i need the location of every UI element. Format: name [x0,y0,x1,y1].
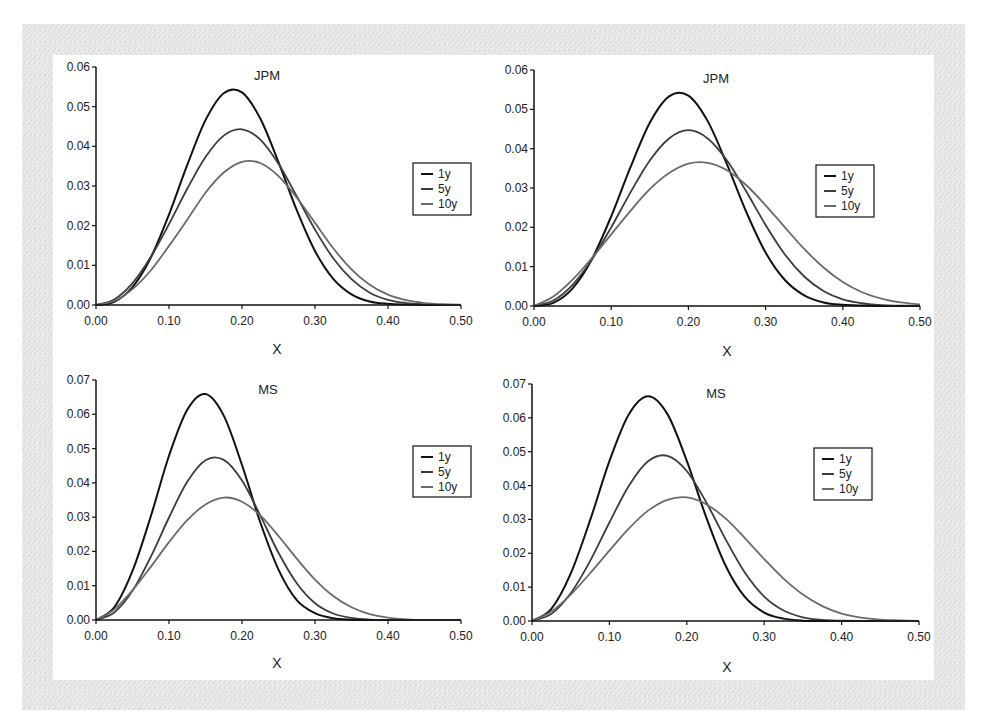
y-tick-label: 0.00 [67,298,91,312]
x-tick-label: 0.50 [449,314,473,328]
chart-title: MS [258,382,278,397]
legend-label-1y: 1y [841,169,854,183]
x-tick-label: 0.20 [230,629,254,643]
series-line-1y [532,396,919,621]
legend-label-1y: 1y [438,450,451,464]
y-tick-label: 0.03 [503,512,527,526]
x-tick-label: 0.40 [831,315,855,329]
x-tick-label: 0.30 [753,630,777,644]
x-tick-label: 0.20 [675,630,699,644]
legend-label-1y: 1y [438,167,451,181]
legend-label-10y: 10y [438,480,457,494]
y-tick-label: 0.07 [503,377,527,391]
x-tick-label: 0.20 [677,315,701,329]
x-tick-label: 0.00 [84,629,108,643]
x-tick-label: 0.10 [600,315,624,329]
y-tick-label: 0.00 [67,613,91,627]
series-line-10y [96,161,461,305]
series-line-1y [96,89,461,305]
x-tick-label: 0.50 [907,630,931,644]
legend: 1y5y10y [816,165,874,217]
legend-label-1y: 1y [839,452,852,466]
chart-ms-right: 0.000.010.020.030.040.050.060.070.000.10… [503,377,931,675]
legend-label-5y: 5y [839,467,852,481]
charts-svg: 0.000.010.020.030.040.050.060.000.100.20… [0,0,984,728]
x-tick-label: 0.00 [84,314,108,328]
legend: 1y5y10y [814,448,872,500]
chart-jpm-left: 0.000.010.020.030.040.050.060.000.100.20… [67,60,473,357]
legend-label-5y: 5y [841,184,854,198]
y-tick-label: 0.04 [67,476,91,490]
x-tick-label: 0.00 [520,630,544,644]
x-tick-label: 0.50 [449,629,473,643]
legend-label-10y: 10y [839,482,858,496]
x-tick-label: 0.30 [303,629,327,643]
chart-title: MS [706,386,726,401]
x-tick-label: 0.30 [754,315,778,329]
x-tick-label: 0.10 [157,314,181,328]
legend: 1y5y10y [413,446,471,497]
series-line-5y [96,457,461,620]
x-tick-label: 0.00 [522,315,546,329]
y-tick-label: 0.00 [503,614,527,628]
y-tick-label: 0.01 [503,580,527,594]
y-tick-label: 0.05 [67,100,91,114]
chart-ms-left: 0.000.010.020.030.040.050.060.070.000.10… [67,373,473,671]
x-tick-label: 0.20 [230,314,254,328]
y-tick-label: 0.05 [503,445,527,459]
y-tick-label: 0.04 [503,479,527,493]
y-tick-label: 0.03 [505,181,529,195]
x-tick-label: 0.10 [598,630,622,644]
y-tick-label: 0.02 [503,546,527,560]
y-tick-label: 0.06 [67,60,91,74]
y-tick-label: 0.03 [67,179,91,193]
y-tick-label: 0.03 [67,510,91,524]
x-tick-label: 0.50 [908,315,932,329]
x-axis-label: X [272,655,282,671]
legend-label-5y: 5y [438,465,451,479]
x-axis-label: X [722,343,732,359]
x-tick-label: 0.40 [376,629,400,643]
y-tick-label: 0.06 [503,411,527,425]
legend: 1y5y10y [413,163,471,215]
y-tick-label: 0.01 [505,260,529,274]
y-tick-label: 0.04 [67,139,91,153]
x-axis-label: X [272,341,282,357]
legend-label-10y: 10y [841,199,860,213]
y-tick-label: 0.05 [67,442,91,456]
y-tick-label: 0.02 [67,544,91,558]
x-tick-label: 0.40 [830,630,854,644]
chart-jpm-right: 0.000.010.020.030.040.050.060.000.100.20… [505,63,932,359]
series-line-1y [96,394,461,620]
x-tick-label: 0.40 [376,314,400,328]
y-tick-label: 0.01 [67,258,91,272]
series-line-5y [96,129,461,305]
y-tick-label: 0.02 [67,219,91,233]
y-tick-label: 0.01 [67,579,91,593]
y-tick-label: 0.02 [505,220,529,234]
x-tick-label: 0.10 [157,629,181,643]
y-tick-label: 0.04 [505,142,529,156]
chart-title: JPM [254,68,280,83]
y-tick-label: 0.05 [505,102,529,116]
series-line-10y [532,497,919,621]
legend-label-10y: 10y [438,197,457,211]
y-tick-label: 0.06 [505,63,529,77]
y-tick-label: 0.07 [67,373,91,387]
chart-title: JPM [703,71,729,86]
y-tick-label: 0.00 [505,299,529,313]
x-axis-label: X [722,659,732,675]
x-tick-label: 0.30 [303,314,327,328]
y-tick-label: 0.06 [67,407,91,421]
series-line-5y [534,130,920,306]
legend-label-5y: 5y [438,182,451,196]
